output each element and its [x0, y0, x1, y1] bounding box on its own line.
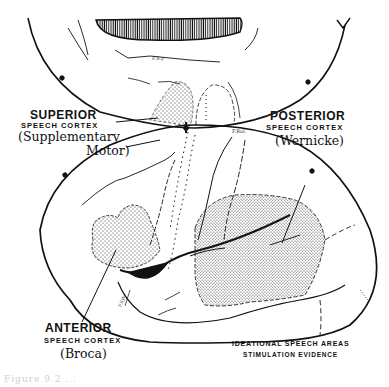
- posterior-title: POSTERIOR: [270, 109, 345, 123]
- anterior-note: (Broca): [60, 346, 107, 361]
- superior-note-line2: Motor): [86, 143, 130, 158]
- posterior-subtitle: SPEECH CORTEX: [266, 123, 343, 132]
- annotation-frol: F.Rol.: [232, 128, 247, 134]
- annotation-fsylv: F.Sylv.: [117, 292, 127, 308]
- legend-line1: IDEATIONAL SPEECH AREAS: [232, 340, 349, 347]
- anterior-subtitle: SPEECH CORTEX: [44, 336, 121, 345]
- superior-title: SUPERIOR: [30, 108, 97, 122]
- superior-note-line1: (Supplementary: [18, 129, 120, 144]
- legend-line2: STIMULATION EVIDENCE: [243, 351, 338, 358]
- anterior-title: ANTERIOR: [45, 321, 112, 335]
- annotation-fsy: F.S.y: [152, 55, 164, 62]
- posterior-note: (Wernicke): [275, 133, 344, 148]
- figure-caption: Figure 9.2 ...: [4, 374, 77, 384]
